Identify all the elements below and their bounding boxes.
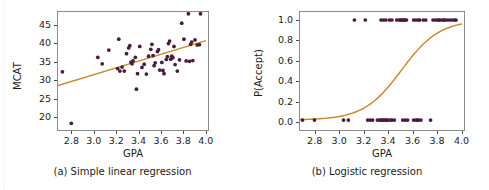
- y-tick-label: 0.2: [263, 97, 293, 107]
- data-point: [153, 61, 157, 65]
- data-point: [144, 72, 148, 76]
- data-point: [135, 87, 139, 91]
- data-point: [107, 48, 111, 52]
- data-point: [392, 118, 396, 122]
- data-point: [429, 118, 433, 122]
- data-point: [454, 18, 458, 22]
- y-tick-label: 1.0: [263, 15, 293, 25]
- y-tick-mark: [296, 122, 299, 123]
- y-tick-mark: [54, 43, 57, 44]
- y-tick-mark: [296, 61, 299, 62]
- x-tick-mark: [339, 131, 340, 134]
- x-axis-title-a: GPA: [57, 148, 209, 159]
- data-point: [142, 62, 146, 66]
- x-tick-mark: [462, 131, 463, 134]
- figure-container: 202530354045 2.83.03.23.43.63.84.0 MCAT …: [0, 0, 489, 190]
- data-point: [313, 118, 317, 122]
- data-point: [118, 69, 122, 73]
- data-point: [158, 68, 162, 72]
- y-tick-label: 35: [21, 57, 51, 67]
- y-axis-title-a: MCAT: [12, 62, 23, 90]
- data-point: [120, 65, 124, 69]
- y-tick-label: 45: [21, 20, 51, 30]
- y-tick-label: 40: [21, 38, 51, 48]
- x-tick-mark: [206, 131, 207, 134]
- x-tick-mark: [388, 131, 389, 134]
- data-point: [61, 70, 65, 74]
- data-point: [301, 118, 305, 122]
- x-tick-mark: [364, 131, 365, 134]
- data-point: [69, 121, 73, 125]
- data-point: [147, 54, 151, 58]
- panel-caption-b: (b) Logistic regression: [245, 166, 489, 177]
- data-point: [418, 18, 422, 22]
- y-tick-label: 0.6: [263, 56, 293, 66]
- data-point: [140, 66, 144, 70]
- data-point: [406, 118, 410, 122]
- x-tick-mark: [71, 131, 72, 134]
- data-point: [100, 62, 104, 66]
- x-tick-mark: [139, 131, 140, 134]
- data-point: [198, 43, 202, 47]
- data-point: [184, 59, 188, 63]
- data-point: [122, 69, 126, 73]
- data-point: [191, 59, 195, 63]
- data-point: [151, 54, 155, 58]
- x-tick-mark: [315, 131, 316, 134]
- scatter-plot-a: [58, 12, 208, 130]
- data-point: [136, 72, 140, 76]
- y-axis-title-b: P(Accept): [253, 49, 264, 97]
- y-tick-mark: [296, 40, 299, 41]
- data-point: [180, 21, 184, 25]
- y-tick-label: 20: [21, 112, 51, 122]
- data-point: [190, 40, 194, 44]
- panel-logistic-regression: 0.00.20.40.60.81.0 2.83.03.23.43.63.84.0…: [245, 0, 489, 190]
- x-tick-mark: [183, 131, 184, 134]
- data-point: [160, 61, 164, 65]
- data-point: [133, 55, 137, 59]
- data-point: [149, 47, 153, 51]
- data-point: [172, 45, 176, 49]
- data-point: [157, 48, 161, 52]
- data-point: [182, 37, 186, 41]
- x-tick-mark: [437, 131, 438, 134]
- y-tick-mark: [296, 81, 299, 82]
- x-tick-label: 4.0: [448, 136, 476, 146]
- data-point: [363, 18, 367, 22]
- y-tick-label: 0.0: [263, 117, 293, 127]
- data-point: [390, 18, 394, 22]
- data-point: [188, 59, 192, 63]
- panel-simple-linear-regression: 202530354045 2.83.03.23.43.63.84.0 MCAT …: [0, 0, 245, 190]
- data-point: [371, 118, 375, 122]
- data-point: [96, 55, 100, 59]
- data-point: [346, 118, 350, 122]
- logistic-curve: [300, 24, 462, 120]
- y-tick-mark: [54, 80, 57, 81]
- data-point: [175, 69, 179, 73]
- data-point: [178, 58, 182, 62]
- y-tick-mark: [54, 25, 57, 26]
- data-point: [419, 118, 423, 122]
- data-point: [173, 63, 177, 67]
- plot-area-a: [57, 11, 209, 131]
- data-point: [150, 42, 154, 46]
- data-point: [125, 52, 129, 56]
- data-point: [162, 72, 166, 76]
- data-point: [168, 39, 172, 43]
- data-point: [193, 38, 197, 42]
- y-tick-mark: [54, 62, 57, 63]
- data-point: [186, 12, 190, 16]
- y-tick-label: 0.4: [263, 76, 293, 86]
- scatter-plot-b: [300, 12, 464, 130]
- data-point: [384, 18, 388, 22]
- data-point: [199, 12, 203, 16]
- y-tick-mark: [54, 99, 57, 100]
- y-tick-mark: [296, 102, 299, 103]
- data-point: [353, 18, 357, 22]
- x-tick-label: 4.0: [192, 136, 220, 146]
- data-point: [138, 45, 142, 49]
- data-point: [128, 44, 132, 48]
- data-point: [342, 118, 346, 122]
- x-tick-mark: [116, 131, 117, 134]
- y-tick-mark: [54, 117, 57, 118]
